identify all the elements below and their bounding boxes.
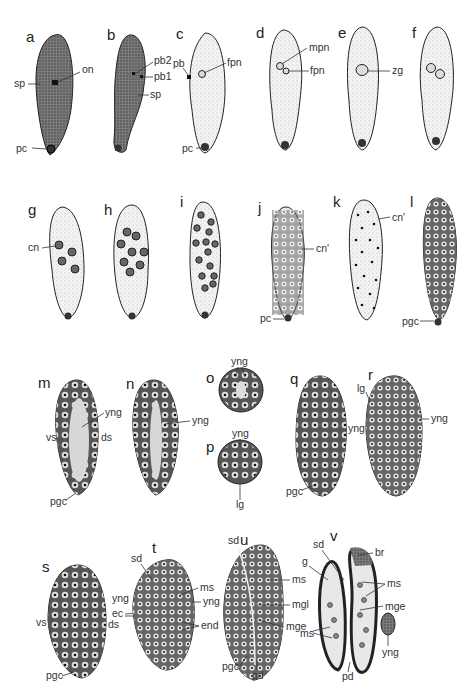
- panel-e: e zg: [338, 24, 403, 150]
- panel-m: m yng vs ds pgc: [38, 374, 122, 507]
- panel-letter: c: [176, 25, 184, 42]
- label: mpn: [309, 41, 330, 53]
- panel-letter: i: [180, 193, 183, 210]
- panel-c: c pb fpn pc: [173, 25, 242, 154]
- label: vs: [36, 616, 47, 628]
- panel-letter: n: [126, 375, 134, 392]
- panel-letter: p: [206, 438, 214, 455]
- label: yng: [203, 595, 220, 607]
- label: g: [302, 555, 308, 567]
- panel-q: q yng pgc: [286, 370, 365, 500]
- panel-n: n yng: [126, 375, 209, 500]
- panel-l: l pgc: [402, 193, 460, 327]
- panel-f: f: [412, 24, 453, 150]
- panel-letter: q: [290, 370, 298, 387]
- label: yng: [112, 592, 129, 604]
- panel-letter: f: [412, 24, 417, 41]
- label: pc: [182, 142, 193, 154]
- label: yng: [105, 406, 122, 418]
- panel-k: k cn': [333, 193, 405, 320]
- label: yng: [431, 412, 448, 424]
- label: ms: [387, 577, 401, 589]
- label: sd: [313, 538, 324, 550]
- panel-i: i: [180, 193, 220, 319]
- panel-letter: b: [107, 26, 115, 43]
- label: br: [375, 546, 385, 558]
- label: sp: [14, 77, 25, 89]
- panel-j: j cn' pc: [257, 199, 329, 324]
- label: sd: [228, 534, 239, 546]
- label: pc: [16, 142, 27, 154]
- panel-letter: v: [330, 527, 338, 544]
- label: yng: [232, 427, 249, 439]
- panel-letter: h: [104, 201, 112, 218]
- label: pc: [260, 312, 271, 324]
- panel-r: r lg yng: [357, 366, 448, 500]
- label: pgc: [50, 495, 67, 507]
- panel-letter: e: [338, 24, 346, 41]
- panel-letter: k: [333, 193, 341, 210]
- panel-p: p yng lg: [206, 427, 262, 510]
- label: cn: [28, 241, 39, 253]
- label: pb: [173, 57, 185, 69]
- label: fpn: [227, 56, 242, 68]
- panel-s: s yng vs ec ds pgc: [36, 558, 140, 685]
- panel-b: b pb2 pb1 sp: [107, 26, 172, 152]
- label: mgl: [292, 598, 309, 610]
- panel-v: v sd br g ms mge ms yng pd: [300, 527, 406, 682]
- label: cn': [316, 242, 329, 254]
- panel-a: a on sp pc: [14, 28, 94, 155]
- label: ds: [108, 618, 119, 630]
- label: lg: [357, 382, 365, 394]
- label: ms: [200, 581, 214, 593]
- label: pgc: [222, 660, 239, 672]
- label: ms: [300, 627, 314, 639]
- panel-letter: m: [38, 374, 51, 391]
- label: pb2: [154, 54, 172, 66]
- label: cn': [392, 211, 405, 223]
- panel-d: d mpn fpn: [256, 24, 330, 150]
- panel-letter: o: [206, 369, 214, 386]
- label: end: [201, 619, 219, 631]
- panel-letter: j: [257, 199, 261, 216]
- panel-o: o yng: [206, 355, 263, 412]
- label: yng: [192, 414, 209, 426]
- label: ds: [101, 431, 112, 443]
- label: yng: [348, 422, 365, 434]
- label: fpn: [310, 64, 325, 76]
- label: ms: [292, 573, 306, 585]
- label: pgc: [46, 669, 63, 681]
- label: sp: [150, 88, 161, 100]
- label: pb1: [154, 70, 172, 82]
- label: sd: [131, 552, 142, 564]
- label: mge: [385, 600, 406, 612]
- label: pgc: [402, 315, 419, 327]
- embryo-development-figure: a on sp pc b pb2 pb1 sp c pb fpn pc: [0, 0, 474, 700]
- panel-letter: d: [256, 24, 264, 41]
- label: on: [82, 63, 94, 75]
- label: pgc: [286, 485, 303, 497]
- panel-letter: g: [28, 201, 36, 218]
- panel-g: g cn: [28, 201, 84, 320]
- panel-letter: t: [152, 539, 157, 556]
- panel-u: u sd ms mgl mge pgc pd: [220, 531, 309, 685]
- label: zg: [392, 64, 403, 76]
- panel-t: t sd ms yng end: [128, 539, 220, 674]
- panel-letter: l: [410, 193, 413, 210]
- panel-letter: s: [42, 558, 50, 575]
- label: yng: [382, 646, 399, 658]
- panel-letter: a: [26, 28, 35, 45]
- panel-h: h: [104, 201, 148, 320]
- label: yng: [231, 355, 248, 367]
- panel-letter: u: [240, 531, 248, 548]
- panel-letter: r: [368, 366, 373, 383]
- label: pd: [252, 669, 264, 681]
- label: vs: [46, 431, 57, 443]
